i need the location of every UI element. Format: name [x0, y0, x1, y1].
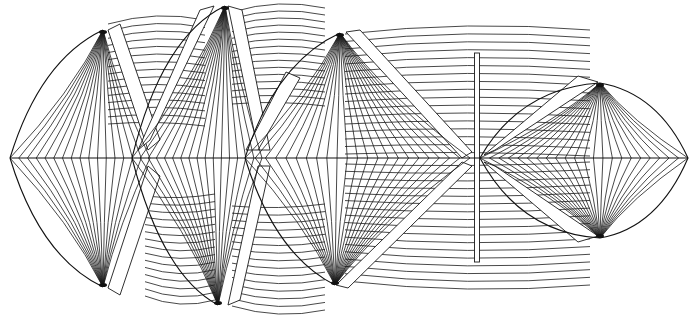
strake-line: [145, 194, 215, 198]
strake-line: [345, 266, 590, 273]
fan-outline-bottom: [10, 158, 103, 287]
strake-line: [108, 23, 205, 31]
strake-line: [345, 137, 590, 141]
fan-line-lower: [10, 158, 103, 287]
fan-line-lower: [335, 158, 439, 285]
fan-line-lower: [19, 158, 103, 287]
strake-line: [145, 296, 215, 304]
gore-diagram: [0, 0, 700, 318]
strake-line: [345, 42, 590, 49]
strake-line: [232, 292, 325, 299]
strake-line: [145, 282, 215, 289]
strake-line: [345, 73, 590, 79]
fan-line-upper: [296, 33, 340, 158]
apex-mark-bottom: [596, 234, 604, 238]
strake-line: [232, 204, 325, 208]
fan-outline-top: [10, 30, 103, 158]
apex-mark-bottom: [99, 283, 107, 287]
fan-line-upper: [600, 83, 612, 158]
fan-4: [480, 83, 688, 238]
strake-line: [232, 285, 325, 292]
strake-line: [232, 277, 325, 283]
divider-band: [346, 30, 472, 158]
fan-line-lower: [600, 158, 679, 238]
fan-line-upper: [327, 33, 340, 158]
strake-line: [345, 26, 590, 34]
strake-line: [108, 16, 205, 24]
strake-line: [345, 259, 590, 266]
strake-line: [345, 113, 590, 117]
strake-line: [232, 299, 325, 307]
strake-line: [345, 274, 590, 282]
fan-line-upper: [600, 83, 641, 158]
strake-line: [345, 177, 590, 181]
fan-line-lower: [335, 158, 460, 285]
strake-line: [345, 34, 590, 42]
divider-band: [138, 6, 214, 150]
apex-mark-top: [596, 83, 604, 87]
strake-line: [145, 289, 215, 297]
strake-line: [232, 11, 325, 19]
strake-line: [345, 121, 590, 125]
fan-line-upper: [103, 30, 115, 158]
fan-line-upper: [489, 83, 600, 158]
apex-mark-bottom: [214, 301, 222, 305]
fan-line-upper: [19, 30, 103, 158]
strake-line: [345, 230, 590, 235]
fan-line-lower: [600, 158, 641, 238]
fan-line-upper: [10, 30, 103, 158]
strake-line: [232, 18, 325, 25]
strake-line: [345, 281, 590, 289]
apex-mark-top: [99, 30, 107, 34]
apex-mark-top: [336, 33, 344, 37]
strake-line: [232, 306, 325, 314]
fan-line-lower: [103, 158, 115, 287]
fan-line-lower: [600, 158, 612, 238]
strake-line: [145, 209, 215, 213]
divider-band: [228, 166, 270, 305]
gore-drawing-svg: [0, 0, 700, 318]
strake-line: [145, 217, 215, 221]
strake-line: [145, 232, 215, 236]
apex-mark-top: [221, 6, 229, 10]
apex-mark-bottom: [331, 281, 339, 285]
fan-line-lower: [335, 158, 409, 285]
fan-line-upper: [600, 83, 679, 158]
